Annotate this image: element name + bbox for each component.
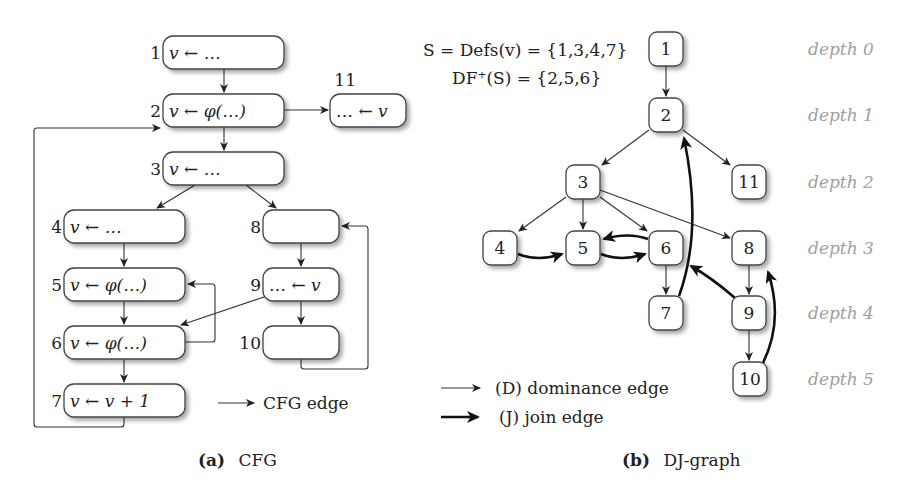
- cfg-node-label: 2: [150, 101, 161, 121]
- cfg-node-code: … ← v: [336, 101, 388, 121]
- figure-canvas: 1v ← …2v ← φ(…)11… ← v3v ← …4v ← …85v ← …: [0, 0, 907, 496]
- cfg-edge-3-4: [157, 185, 195, 208]
- dj-node-9: 9: [732, 296, 766, 330]
- cfg-node-8: 8: [250, 210, 339, 243]
- cfg-edge-3-8: [246, 185, 276, 208]
- dj-node-5: 5: [566, 231, 600, 265]
- dj-node-label: 5: [578, 238, 589, 258]
- depth-label-1: depth 1: [808, 105, 874, 125]
- cfg-node-1: 1v ← …: [150, 36, 284, 69]
- dj-formula-defs: S = Defs(v) = {1,3,4,7}: [423, 40, 627, 60]
- dj-node-label: 2: [661, 105, 672, 125]
- dj-d-edge-2-11: [683, 130, 730, 165]
- dj-legend-dominance-label: (D) dominance edge: [495, 378, 669, 398]
- dj-formula-df-plus: DF⁺(S) = {2,5,6}: [452, 68, 601, 88]
- dj-node-1: 1: [649, 32, 683, 66]
- dj-d-edge-3-4: [519, 197, 566, 231]
- cfg-edge-6-5: [185, 284, 215, 342]
- dj-node-8: 8: [732, 231, 766, 265]
- dj-j-edge-5-6: [601, 254, 645, 258]
- cfg-panel: 1v ← …2v ← φ(…)11… ← v3v ← …4v ← …85v ← …: [34, 36, 406, 470]
- dj-node-label: 11: [738, 172, 760, 192]
- cfg-node-label: 3: [150, 159, 161, 179]
- dj-node-label: 7: [661, 303, 672, 323]
- dj-caption: (b) DJ-graph: [622, 450, 741, 470]
- dj-legend: (D) dominance edge (J) join edge: [441, 378, 669, 427]
- dj-node-3: 3: [566, 165, 600, 199]
- dj-node-2: 2: [649, 98, 683, 132]
- cfg-node-label: 7: [51, 391, 62, 411]
- dj-j-edge-6-5: [604, 236, 648, 240]
- dj-panel: S = Defs(v) = {1,3,4,7} DF⁺(S) = {2,5,6}…: [423, 32, 874, 470]
- dj-node-label: 10: [739, 369, 761, 389]
- cfg-node-7: 7v ← v + 1: [51, 384, 185, 417]
- cfg-node-label: 1: [150, 43, 161, 63]
- dj-node-label: 8: [744, 238, 755, 258]
- dj-node-10: 10: [733, 362, 767, 396]
- dj-node-label: 9: [744, 303, 755, 323]
- cfg-node-label: 9: [250, 275, 261, 295]
- cfg-node-code: v ← φ(…): [70, 333, 147, 353]
- dj-node-label: 6: [661, 238, 672, 258]
- cfg-node-code: v ← …: [169, 43, 221, 63]
- cfg-node-box: [263, 326, 339, 359]
- dj-j-edge-7-2: [679, 138, 692, 296]
- depth-label-0: depth 0: [808, 39, 874, 59]
- cfg-node-3: 3v ← …: [150, 152, 284, 185]
- dj-node-11: 11: [732, 165, 766, 199]
- cfg-node-label: 10: [239, 333, 261, 353]
- dj-dominance-edges: [519, 66, 749, 360]
- cfg-node-4: 4v ← …: [51, 210, 185, 243]
- cfg-caption-text: CFG: [239, 450, 277, 470]
- cfg-node-label: 8: [250, 217, 261, 237]
- dj-node-label: 1: [661, 39, 672, 59]
- cfg-legend-label: CFG edge: [263, 393, 349, 413]
- cfg-legend: CFG edge: [218, 393, 349, 413]
- dj-caption-tag: (b): [622, 450, 650, 470]
- cfg-node-11: 11… ← v: [330, 70, 406, 127]
- depth-label-2: depth 2: [808, 172, 874, 192]
- cfg-node-code: v ← φ(…): [70, 275, 147, 295]
- cfg-node-label: 5: [51, 275, 62, 295]
- cfg-edge-9-6: [181, 297, 264, 325]
- cfg-caption-tag: (a): [198, 450, 225, 470]
- cfg-node-code: v ← φ(…): [169, 101, 246, 121]
- depth-label-5: depth 5: [808, 369, 874, 389]
- cfg-node-2: 2v ← φ(…): [150, 94, 284, 127]
- dj-caption-text: DJ-graph: [663, 450, 740, 470]
- cfg-node-6: 6v ← φ(…): [51, 326, 185, 359]
- dj-node-6: 6: [649, 231, 683, 265]
- dj-node-label: 3: [578, 172, 589, 192]
- cfg-node-code: v ← v + 1: [70, 391, 150, 411]
- dj-d-edge-3-6: [600, 197, 647, 231]
- cfg-node-9: 9… ← v: [250, 268, 339, 301]
- dj-d-edge-2-3: [602, 130, 649, 165]
- dj-node-label: 4: [495, 238, 506, 258]
- dj-depth-labels: depth 0depth 1depth 2depth 3depth 4depth…: [808, 39, 874, 389]
- cfg-node-label: 6: [51, 333, 62, 353]
- cfg-node-label: 11: [334, 70, 356, 90]
- cfg-node-5: 5v ← φ(…): [51, 268, 185, 301]
- depth-label-4: depth 4: [808, 303, 874, 323]
- cfg-node-label: 4: [51, 217, 62, 237]
- depth-label-3: depth 3: [808, 238, 874, 258]
- dj-j-edge-4-5: [518, 254, 562, 258]
- cfg-node-code: … ← v: [269, 275, 321, 295]
- cfg-node-box: [263, 210, 339, 243]
- dj-j-edge-9-6: [691, 266, 735, 298]
- cfg-node-10: 10: [239, 326, 339, 359]
- dj-node-4: 4: [483, 231, 517, 265]
- cfg-node-code: v ← …: [70, 217, 122, 237]
- cfg-caption: (a) CFG: [198, 450, 277, 470]
- dj-legend-join-label: (J) join edge: [499, 407, 604, 427]
- cfg-node-code: v ← …: [169, 159, 221, 179]
- dj-node-7: 7: [649, 296, 683, 330]
